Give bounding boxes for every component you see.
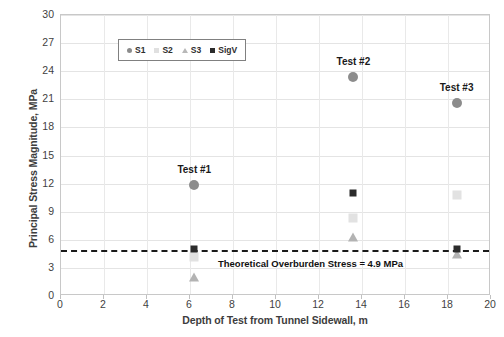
gridline-horizontal	[61, 156, 489, 157]
legend-entry-s3[interactable]: S3	[182, 45, 201, 55]
legend-entry-sigv[interactable]: SigV	[210, 45, 237, 55]
y-axis-tick-label: 15	[8, 149, 60, 161]
square-dark-icon	[210, 48, 215, 53]
plot-area: S1S2S3SigV Theoretical Overburden Stress…	[60, 14, 490, 295]
y-axis-tick-label: 27	[8, 36, 60, 48]
x-axis-tick-label: 20	[470, 298, 504, 310]
gridline-vertical	[448, 15, 449, 294]
data-point-square-dark	[453, 246, 460, 253]
legend-entry-s1[interactable]: S1	[127, 45, 145, 55]
legend-entry-s2[interactable]: S2	[154, 45, 172, 55]
x-axis-tick-label: 6	[169, 298, 209, 310]
x-axis-title: Depth of Test from Tunnel Sidewall, m	[60, 314, 490, 326]
data-point-square-light	[349, 214, 358, 223]
y-axis-tick-label: 6	[8, 233, 60, 245]
y-axis-tick-label: 9	[8, 205, 60, 217]
gridline-vertical	[104, 15, 105, 294]
square-light-icon	[154, 48, 159, 53]
y-axis-tick-label: 21	[8, 92, 60, 104]
test-point-label: Test #1	[177, 163, 211, 174]
x-axis-tick-label: 14	[341, 298, 381, 310]
x-axis-tick-label: 16	[384, 298, 424, 310]
data-point-square-dark	[191, 246, 198, 253]
x-axis-tick-labels: 02468101214161820	[60, 298, 490, 314]
gridline-horizontal	[61, 71, 489, 72]
data-point-square-light	[452, 190, 461, 199]
legend-label: S3	[191, 45, 201, 55]
data-point-square-light	[190, 252, 199, 261]
gridline-vertical	[319, 15, 320, 294]
legend-label: S1	[135, 45, 145, 55]
gridline-vertical	[405, 15, 406, 294]
gridline-horizontal	[61, 240, 489, 241]
x-axis-tick-label: 2	[83, 298, 123, 310]
gridline-horizontal	[61, 184, 489, 185]
x-axis-tick-label: 18	[427, 298, 467, 310]
x-axis-tick-label: 0	[40, 298, 80, 310]
gridline-horizontal	[61, 212, 489, 213]
y-axis-tick-label: 18	[8, 120, 60, 132]
data-point-square-dark	[350, 189, 357, 196]
chart-legend: S1S2S3SigV	[118, 39, 246, 61]
data-point-triangle	[189, 273, 199, 282]
y-axis-tick-label: 12	[8, 177, 60, 189]
x-axis-tick-label: 4	[126, 298, 166, 310]
data-point-triangle	[348, 232, 358, 241]
data-point-circle	[452, 98, 462, 108]
test-point-label: Test #3	[440, 82, 474, 93]
y-axis-tick-label: 24	[8, 64, 60, 76]
scatter-chart-figure: Principal Stress Magnitude, MPa 03691215…	[0, 0, 504, 337]
overburden-threshold-line	[61, 250, 489, 252]
y-axis-tick-labels: 036912151821242730	[0, 14, 60, 295]
gridline-horizontal	[61, 127, 489, 128]
triangle-icon	[182, 48, 188, 53]
y-axis-tick-label: 30	[8, 8, 60, 20]
circle-icon	[127, 48, 132, 53]
test-point-label: Test #2	[337, 55, 371, 66]
x-axis-tick-label: 8	[212, 298, 252, 310]
x-axis-tick-label: 12	[298, 298, 338, 310]
x-axis-tick-label: 10	[255, 298, 295, 310]
legend-label: SigV	[218, 45, 237, 55]
data-point-circle	[189, 180, 199, 190]
overburden-threshold-label: Theoretical Overburden Stress = 4.9 MPa	[218, 257, 403, 268]
gridline-horizontal	[61, 99, 489, 100]
data-point-circle	[348, 72, 358, 82]
gridline-horizontal	[61, 15, 489, 16]
y-axis-tick-label: 3	[8, 261, 60, 273]
gridline-vertical	[276, 15, 277, 294]
legend-label: S2	[162, 45, 172, 55]
